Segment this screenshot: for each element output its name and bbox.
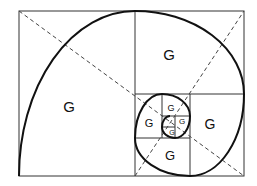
region-label-bottom-inner: G — [169, 129, 174, 136]
region-label-bottom: G — [165, 149, 175, 162]
region-label-right-inner: G — [179, 118, 185, 126]
region-label-left-inner: G — [145, 118, 154, 129]
diagram-graphics — [0, 0, 257, 186]
golden-spiral-diagram: G G G G G G G G — [0, 0, 257, 186]
region-label-top-inner: G — [167, 104, 174, 113]
region-label-large-left: G — [63, 99, 75, 114]
region-label-right: G — [205, 117, 216, 131]
region-label-top-right: G — [163, 47, 175, 62]
